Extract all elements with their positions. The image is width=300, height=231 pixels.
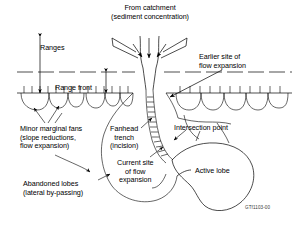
label-from-catchment-line2: (sediment concentration) xyxy=(111,13,189,22)
label-earlier-site-of-flow-expansion: Earlier site of flow expansion xyxy=(199,53,246,70)
label-minor-marginal-fans-line3: flow expansion) xyxy=(20,142,82,151)
minor-marginal-fans-right xyxy=(176,86,288,110)
label-abandoned-lobes-line2: (lateral by-passing) xyxy=(23,189,83,198)
fanhead-trench-channel xyxy=(146,90,173,163)
minor-marginal-fans-leaders xyxy=(34,106,62,123)
label-from-catchment: From catchment (sediment concentration) xyxy=(111,4,189,21)
label-ranges: Ranges xyxy=(40,44,64,53)
active-lobe-outline xyxy=(172,143,254,211)
figure-credit-code: GTf1103-00 xyxy=(245,205,270,210)
label-minor-marginal-fans: Minor marginal fans (slope reductions, f… xyxy=(20,125,82,151)
alluvial-fan-diagram: From catchment (sediment concentration) … xyxy=(0,0,300,231)
label-range-front: Range front xyxy=(55,84,92,93)
label-fanhead-trench: Fanhead trench (incision) xyxy=(110,125,138,151)
label-active-lobe: Active lobe xyxy=(195,167,230,176)
fanhead-trench-leader xyxy=(141,118,152,128)
label-fanhead-trench-line3: (incision) xyxy=(110,142,138,151)
label-current-site-of-flow-expansion: Current site of flow expansion xyxy=(117,159,154,185)
label-current-site-line3: expansion xyxy=(117,176,154,185)
label-intersection-point: Intersection point xyxy=(174,124,228,133)
feeder-channel xyxy=(112,36,187,90)
label-earlier-site-line2: flow expansion xyxy=(199,62,246,71)
label-abandoned-lobes: Abandoned lobes (lateral by-passing) xyxy=(23,180,83,197)
